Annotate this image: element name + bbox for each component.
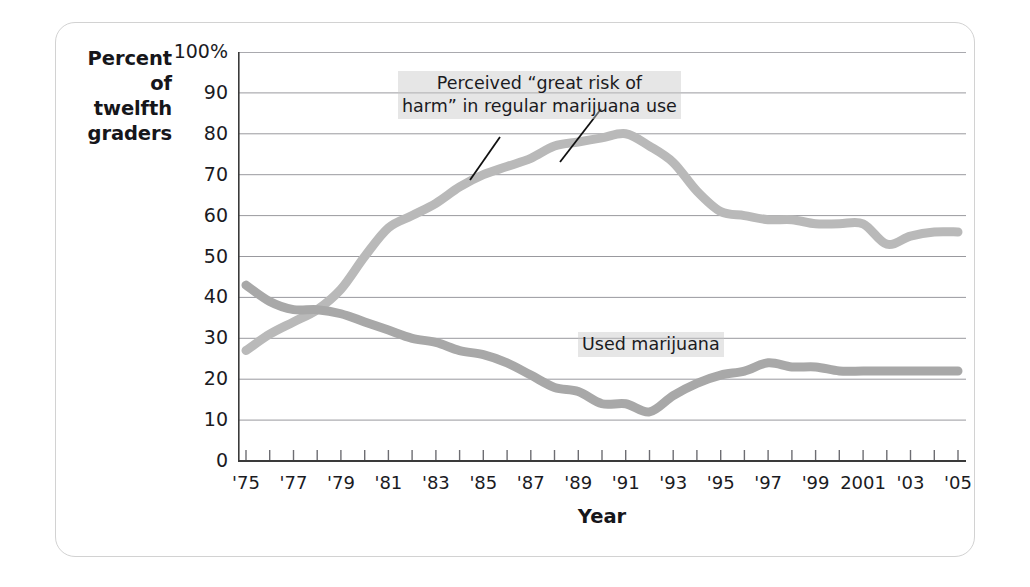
y-tick-label-100: 100% — [148, 40, 228, 62]
x-tick-marks — [246, 450, 958, 461]
x-tick-label-y99: '99 — [802, 472, 830, 493]
x-tick-label-y85: '85 — [469, 472, 497, 493]
x-tick-label-y75: '75 — [232, 472, 260, 493]
y-tick-label-40: 40 — [148, 285, 228, 307]
y-tick-label-80: 80 — [148, 122, 228, 144]
data-series-group — [246, 134, 958, 413]
y-tick-label-30: 30 — [148, 326, 228, 348]
x-tick-label-y93: '93 — [659, 472, 687, 493]
x-tick-label-y97: '97 — [754, 472, 782, 493]
annotation-risk-line2: harm” in regular marijuana use — [402, 96, 677, 116]
x-tick-label-y87: '87 — [517, 472, 545, 493]
x-tick-label-y83: '83 — [422, 472, 450, 493]
x-tick-label-y81: '81 — [374, 472, 402, 493]
x-tick-label-y03: '03 — [897, 472, 925, 493]
y-tick-label-90: 90 — [148, 81, 228, 103]
annotation-perceived-risk: Perceived “great risk ofharm” in regular… — [398, 71, 681, 119]
y-tick-label-70: 70 — [148, 163, 228, 185]
x-axis-title: Year — [238, 505, 966, 528]
y-tick-label-60: 60 — [148, 204, 228, 226]
y-tick-label-20: 20 — [148, 367, 228, 389]
x-tick-label-y79: '79 — [327, 472, 355, 493]
x-tick-label-2001: 2001 — [840, 472, 886, 493]
x-tick-label-y95: '95 — [707, 472, 735, 493]
annotation-risk-line1: Perceived “great risk of — [437, 73, 642, 93]
x-tick-label-y05: '05 — [944, 472, 972, 493]
y-tick-label-10: 10 — [148, 408, 228, 430]
y-tick-label-0: 0 — [148, 449, 228, 471]
x-tick-label-y77: '77 — [280, 472, 308, 493]
x-tick-label-y91: '91 — [612, 472, 640, 493]
plot-area: Perceived “great risk ofharm” in regular… — [238, 52, 966, 462]
y-tick-label-50: 50 — [148, 245, 228, 267]
annotation-used-marijuana: Used marijuana — [578, 332, 724, 357]
figure-container: Percentoftwelfthgraders Perceived “great… — [0, 0, 1030, 587]
x-tick-label-y89: '89 — [564, 472, 592, 493]
